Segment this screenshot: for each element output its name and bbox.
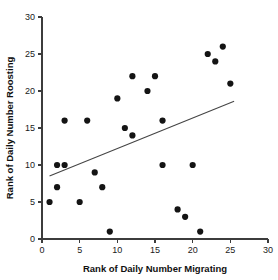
scatter-point	[152, 73, 158, 79]
scatter-point	[107, 229, 113, 235]
scatter-point	[205, 51, 211, 57]
scatter-point	[54, 184, 60, 190]
scatter-point	[99, 184, 105, 190]
scatter-point	[122, 125, 128, 131]
x-axis-title: Rank of Daily Number Migrating	[83, 263, 227, 274]
y-axis-ticks: 051015202530	[25, 12, 42, 244]
scatter-point	[62, 162, 68, 168]
scatter-point	[46, 199, 52, 205]
scatter-point	[159, 118, 165, 124]
x-tick-label: 15	[150, 245, 160, 255]
y-tick-label: 10	[25, 160, 35, 170]
scatter-point	[197, 229, 203, 235]
scatter-point	[77, 199, 83, 205]
y-tick-label: 0	[30, 234, 35, 244]
scatter-point	[175, 206, 181, 212]
y-tick-label: 20	[25, 86, 35, 96]
scatter-point	[182, 214, 188, 220]
y-tick-label: 5	[30, 197, 35, 207]
trend-line	[50, 101, 235, 176]
x-tick-label: 10	[112, 245, 122, 255]
y-tick-label: 15	[25, 123, 35, 133]
scatter-point	[220, 44, 226, 50]
scatter-point	[227, 81, 233, 87]
scatter-point	[144, 88, 150, 94]
scatter-point	[129, 132, 135, 138]
scatter-point	[54, 162, 60, 168]
scatter-point	[129, 73, 135, 79]
x-tick-label: 0	[39, 245, 44, 255]
scatter-plot-figure: 051015202530 051015202530 Rank of Daily …	[0, 0, 278, 280]
x-tick-label: 30	[263, 245, 273, 255]
x-tick-label: 5	[77, 245, 82, 255]
y-axis-title: Rank of Daily Number Roosting	[4, 57, 15, 200]
scatter-point	[212, 58, 218, 64]
x-tick-label: 20	[188, 245, 198, 255]
scatter-point	[114, 95, 120, 101]
y-tick-label: 30	[25, 12, 35, 22]
y-tick-label: 25	[25, 49, 35, 59]
scatter-point	[62, 118, 68, 124]
x-axis-ticks: 051015202530	[39, 239, 273, 255]
plot-canvas: 051015202530 051015202530 Rank of Daily …	[0, 0, 278, 280]
scatter-point	[190, 162, 196, 168]
scatter-point	[84, 118, 90, 124]
scatter-point	[159, 162, 165, 168]
x-tick-label: 25	[225, 245, 235, 255]
scatter-point	[92, 169, 98, 175]
